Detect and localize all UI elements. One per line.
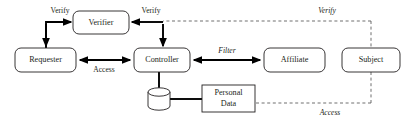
node-verifier-label: Verifier	[88, 18, 113, 27]
node-affiliate-label: Affiliate	[281, 55, 309, 64]
edge-label-verify-dashed: Verify	[318, 6, 336, 15]
diagram-svg: Requester Verifier Controller Affiliate …	[0, 0, 415, 123]
node-personal-data-label-line2: Data	[221, 99, 237, 108]
node-verifier[interactable]: Verifier	[73, 11, 129, 34]
node-requester[interactable]: Requester	[15, 48, 76, 72]
node-personal-data-label-line1: Personal	[214, 88, 243, 97]
node-controller[interactable]: Controller	[134, 48, 190, 72]
edge-label-access-dashed: Access	[319, 108, 341, 117]
node-requester-label: Requester	[29, 55, 62, 64]
node-affiliate[interactable]: Affiliate	[264, 48, 325, 72]
edge-label-access-mid: Access	[93, 65, 115, 74]
edge-requester-to-verifier-path	[46, 22, 71, 48]
diagram-canvas: Requester Verifier Controller Affiliate …	[0, 0, 415, 123]
database-cylinder-top	[148, 88, 170, 96]
edge-label-filter: Filter	[217, 46, 235, 55]
node-subject-label: Subject	[359, 55, 384, 64]
node-group: Requester Verifier Controller Affiliate …	[15, 11, 400, 112]
edge-label-verify-right: Verify	[142, 6, 161, 15]
node-database[interactable]	[148, 88, 170, 110]
node-controller-label: Controller	[145, 55, 179, 64]
edge-label-verify-left: Verify	[51, 6, 70, 15]
node-subject[interactable]: Subject	[342, 48, 400, 72]
node-personal-data[interactable]: Personal Data	[202, 85, 255, 112]
